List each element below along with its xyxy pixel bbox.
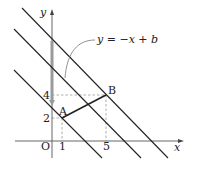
coordinate-diagram: y = −x + b y x O 1 5 4 2 A B [0,0,197,174]
guide-lines [52,95,106,141]
callout-leader [65,40,95,78]
x-tick-1: 1 [59,140,66,153]
segment-ab [62,95,106,118]
line-b9 [22,8,168,158]
y-axis-label: y [39,6,47,19]
x-tick-5: 5 [103,140,110,153]
parallel-lines [14,8,168,158]
origin-label: O [41,140,50,153]
point-a-label: A [58,105,68,118]
y-tick-4: 4 [43,89,50,102]
x-axis-label: x [174,141,181,154]
line-b3 [14,70,102,158]
y-axis-arrow-icon [50,9,54,15]
line-b6 [14,29,141,158]
point-b-label: B [108,84,116,97]
y-tick-2: 2 [43,112,50,125]
equation-label: y = −x + b [96,33,158,46]
